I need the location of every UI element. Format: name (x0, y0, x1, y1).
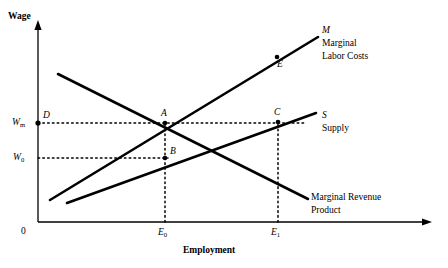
x-axis-arrowhead (422, 218, 432, 225)
curve-key-supply: S (322, 110, 327, 121)
point-label-a: A (161, 108, 167, 119)
point-label-c: C (274, 107, 280, 118)
y-tick-w0-base: W (13, 152, 21, 162)
origin-label: 0 (21, 226, 26, 237)
y-tick-wm-base: W (12, 117, 20, 127)
point-marker-d (35, 120, 40, 125)
curve-name-marginal-revenue-product-line1: Marginal Revenue (311, 192, 381, 203)
x-tick-e1-subscript: 1 (277, 231, 280, 238)
y-tick-wm-subscript: m (20, 121, 25, 128)
curve-name-marginal-revenue-product-line2: Product (311, 205, 341, 216)
curve-key-marginal-labor-costs: M (322, 25, 330, 36)
x-axis-title: Employment (183, 245, 235, 256)
marginal-revenue-product-curve (58, 74, 308, 199)
point-label-d: D (43, 110, 50, 121)
y-tick-w0: W0 (13, 152, 24, 163)
y-axis-arrowhead (34, 20, 41, 30)
x-tick-e0-base: E (158, 227, 164, 237)
curve-name-marginal-labor-costs-line2: Labor Costs (322, 51, 368, 62)
figure-canvas (0, 0, 448, 268)
curve-name-supply: Supply (322, 123, 349, 134)
point-marker-c (276, 120, 281, 125)
x-tick-e1-base: E (271, 227, 277, 237)
x-tick-e1: E1 (271, 227, 280, 238)
point-label-b: B (170, 146, 176, 157)
point-marker-b (163, 156, 168, 161)
y-tick-wm: Wm (12, 117, 25, 128)
x-tick-e0: E0 (158, 227, 167, 238)
point-label-e: E (277, 59, 283, 70)
y-tick-w0-subscript: 0 (21, 156, 24, 163)
point-marker-a (163, 121, 168, 126)
curve-name-marginal-labor-costs-line1: Marginal (322, 38, 357, 49)
x-tick-e0-subscript: 0 (164, 231, 167, 238)
monopsony-labor-market-figure: Wage Employment 0 Wm W0 E0 E1 A B C D E … (0, 0, 448, 268)
y-axis-title: Wage (8, 11, 31, 22)
